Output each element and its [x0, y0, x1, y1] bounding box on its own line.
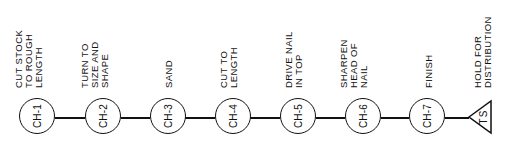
- operation-node-ch-1: CH-1: [19, 98, 55, 134]
- desc-line: NAIL: [359, 39, 369, 88]
- node-label: CH-6: [358, 104, 369, 128]
- connector-2-3: [121, 117, 150, 119]
- desc-line: IN TOP: [294, 31, 304, 88]
- node-label: CH-1: [32, 104, 43, 128]
- operation-node-ch-4: CH-4: [215, 98, 251, 134]
- step-description-ch-3: SAND: [164, 60, 174, 88]
- connector-7-ts: [445, 117, 469, 119]
- step-description-ts: HOLD FOR DISTRIBUTION: [473, 16, 493, 88]
- node-label: CH-3: [163, 104, 174, 128]
- operation-node-ch-6: CH-6: [345, 98, 381, 134]
- desc-line: SAND: [164, 60, 174, 88]
- step-description-ch-5: DRIVE NAIL IN TOP: [284, 31, 304, 88]
- connector-4-5: [250, 117, 280, 119]
- connector-3-4: [185, 117, 215, 119]
- desc-line: SHAPE: [100, 42, 110, 89]
- operation-node-ch-5: CH-5: [280, 98, 316, 134]
- step-description-ch-2: TURN TO SIZE AND SHAPE: [80, 42, 110, 89]
- connector-6-7: [381, 117, 409, 119]
- step-description-ch-4: CUT TO LENGTH: [219, 47, 239, 88]
- operation-node-ch-2: CH-2: [85, 98, 121, 134]
- desc-line: LENGTH: [229, 47, 239, 88]
- connector-1-2: [55, 117, 85, 119]
- operation-node-ch-7: CH-7: [409, 98, 445, 134]
- node-label: CH-2: [98, 104, 109, 128]
- node-label: CH-5: [293, 104, 304, 128]
- step-description-ch-6: SHARPEN HEAD OF NAIL: [339, 39, 369, 88]
- process-flow-diagram: CUT STOCK TO ROUGH LENGTH CH-1 TURN TO S…: [0, 0, 526, 149]
- node-label: CH-4: [228, 104, 239, 128]
- operation-node-ch-3: CH-3: [150, 98, 186, 134]
- desc-line: FINISH: [424, 54, 434, 88]
- storage-label: TS: [478, 110, 489, 125]
- desc-line: DISTRIBUTION: [483, 16, 493, 88]
- connector-5-6: [316, 117, 345, 119]
- step-description-ch-7: FINISH: [424, 54, 434, 88]
- desc-line: LENGTH: [34, 30, 44, 88]
- step-description-ch-1: CUT STOCK TO ROUGH LENGTH: [14, 30, 44, 88]
- node-label: CH-7: [422, 104, 433, 128]
